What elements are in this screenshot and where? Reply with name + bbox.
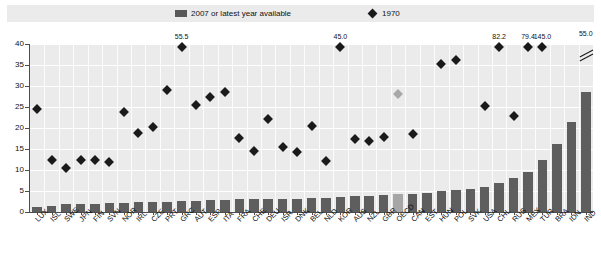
marker-1970-che[interactable]: [249, 146, 259, 156]
gridline-x: [348, 44, 349, 212]
marker-1970-svn[interactable]: [104, 157, 114, 167]
gridline-y-15: [30, 149, 593, 150]
gridline-x: [73, 44, 74, 212]
y-tick-0: [25, 212, 29, 213]
value-label-ind: 55.0: [579, 30, 593, 37]
marker-1970-fin[interactable]: [90, 155, 100, 165]
marker-1970-aut[interactable]: [191, 100, 201, 110]
gridline-x: [189, 44, 190, 212]
axis-break-icon: [579, 49, 593, 58]
value-label-grc: 55.5: [175, 33, 189, 40]
y-tick-label-15: 15: [4, 145, 24, 153]
marker-1970-lux[interactable]: [32, 104, 42, 114]
y-tick-30: [25, 86, 29, 87]
marker-1970-cze[interactable]: [148, 122, 158, 132]
gridline-x: [362, 44, 363, 212]
marker-1970-ita[interactable]: [220, 87, 230, 97]
marker-1970-can[interactable]: [408, 129, 418, 139]
y-tick-label-5: 5: [4, 187, 24, 195]
gridline-x: [405, 44, 406, 212]
gridline-x: [463, 44, 464, 212]
y-tick-label-30: 30: [4, 82, 24, 90]
marker-1970-bel[interactable]: [307, 121, 317, 131]
gridline-x: [261, 44, 262, 212]
gridline-y-30: [30, 86, 593, 87]
y-tick-label-20: 20: [4, 124, 24, 132]
gridline-y-40: [30, 44, 593, 45]
marker-1970-rus[interactable]: [509, 111, 519, 121]
value-label-tur: 145.0: [534, 33, 552, 40]
y-axis-line: [29, 44, 30, 213]
marker-1970-nzl[interactable]: [364, 136, 374, 146]
bar-bra[interactable]: [552, 144, 562, 212]
gridline-x: [290, 44, 291, 212]
gridline-y-35: [30, 65, 593, 66]
bar-mex[interactable]: [523, 172, 533, 212]
gridline-x: [102, 44, 103, 212]
bar-idn[interactable]: [567, 122, 577, 212]
bar-usa[interactable]: [480, 187, 490, 212]
y-tick-5: [25, 191, 29, 192]
value-label-kor: 45.0: [334, 33, 348, 40]
marker-1970-deu[interactable]: [263, 114, 273, 124]
plot-area: [30, 44, 593, 212]
gridline-x: [550, 44, 551, 212]
gridline-x: [376, 44, 377, 212]
gridline-x: [304, 44, 305, 212]
y-tick-15: [25, 149, 29, 150]
marker-1970-fra[interactable]: [234, 133, 244, 143]
gridline-x: [478, 44, 479, 212]
gridline-x: [160, 44, 161, 212]
gridline-x: [131, 44, 132, 212]
marker-1970-irl[interactable]: [133, 128, 143, 138]
gridline-x: [174, 44, 175, 212]
marker-1970-gbr[interactable]: [379, 132, 389, 142]
gridline-x: [203, 44, 204, 212]
gridline-x: [88, 44, 89, 212]
y-tick-label-10: 10: [4, 166, 24, 174]
gridline-x: [420, 44, 421, 212]
y-tick-40: [25, 44, 29, 45]
gridline-x: [145, 44, 146, 212]
y-tick-label-35: 35: [4, 61, 24, 69]
y-tick-label-0: 0: [4, 208, 24, 216]
gridline-x: [391, 44, 392, 212]
gridline-x: [564, 44, 565, 212]
marker-1970-hun[interactable]: [436, 59, 446, 69]
gridline-x: [218, 44, 219, 212]
gridline-x: [449, 44, 450, 212]
legend-dot-label: 1970: [382, 10, 400, 18]
bar-ind[interactable]: [581, 92, 591, 212]
marker-1970-jpn[interactable]: [76, 155, 86, 165]
marker-1970-esp[interactable]: [205, 92, 215, 102]
marker-1970-isr[interactable]: [278, 142, 288, 152]
legend-entry-bars: 2007 or latest year available: [175, 5, 291, 22]
gridline-x: [232, 44, 233, 212]
marker-1970-pol[interactable]: [451, 55, 461, 65]
y-tick-25: [25, 107, 29, 108]
chart-legend: 2007 or latest year available 1970: [7, 5, 594, 22]
gridline-x: [333, 44, 334, 212]
gridline-x: [579, 44, 580, 212]
gridline-x: [44, 44, 45, 212]
bar-chl[interactable]: [494, 183, 504, 212]
marker-1970-usa[interactable]: [480, 101, 490, 111]
gridline-x: [506, 44, 507, 212]
y-tick-label-40: 40: [4, 40, 24, 48]
gridline-x: [521, 44, 522, 212]
marker-1970-oecd[interactable]: [393, 89, 403, 99]
y-tick-10: [25, 170, 29, 171]
marker-1970-aus[interactable]: [350, 134, 360, 144]
gridline-x: [59, 44, 60, 212]
gridline-x: [535, 44, 536, 212]
value-label-chl: 82.2: [492, 33, 506, 40]
marker-1970-nld[interactable]: [321, 156, 331, 166]
bar-rus[interactable]: [509, 178, 519, 212]
marker-1970-nor[interactable]: [119, 107, 129, 117]
y-tick-35: [25, 65, 29, 66]
gridline-x: [247, 44, 248, 212]
gridline-y-10: [30, 170, 593, 171]
legend-bar-swatch: [175, 10, 187, 17]
marker-1970-isl[interactable]: [47, 155, 57, 165]
bar-tur[interactable]: [538, 160, 548, 212]
